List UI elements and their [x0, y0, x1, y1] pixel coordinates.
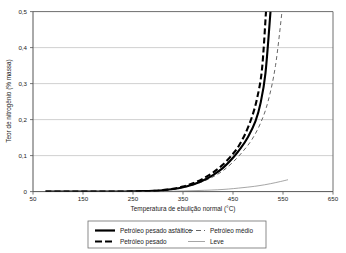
- xtick-label-550: 550: [278, 195, 289, 202]
- legend-label-petroleo-medio: Petróleo médio: [210, 227, 253, 234]
- nitrogen-content-chart: 0,5 0,4 0,3 0,2 0,1 0 50 150 250 350 450…: [0, 0, 346, 253]
- chart-figure: 0,5 0,4 0,3 0,2 0,1 0 50 150 250 350 450…: [0, 0, 346, 253]
- xtick-label-50: 50: [30, 195, 37, 202]
- ytick-label-0.4: 0,4: [18, 44, 27, 51]
- legend-label-petroleo-pesado: Petróleo pesado: [120, 238, 167, 246]
- chart-background: [0, 0, 346, 253]
- xtick-label-650: 650: [328, 195, 339, 202]
- legend-box: [88, 221, 266, 248]
- xtick-label-150: 150: [78, 195, 89, 202]
- legend-label-leve: Leve: [210, 238, 224, 245]
- xtick-label-250: 250: [128, 195, 139, 202]
- legend-label-petroleo-pesado-asfaltico: Petróleo pesado asfáltico: [120, 227, 192, 235]
- ytick-label-0.1: 0,1: [18, 152, 27, 159]
- ytick-label-0: 0: [24, 188, 28, 195]
- xtick-label-350: 350: [178, 195, 189, 202]
- xtick-label-450: 450: [228, 195, 239, 202]
- ytick-label-0.3: 0,3: [18, 80, 27, 87]
- ytick-label-0.5: 0,5: [18, 8, 27, 15]
- y-axis-title: Teor de nitrogênio (% massa): [5, 59, 13, 142]
- ytick-label-0.2: 0,2: [18, 116, 27, 123]
- x-axis-title: Temperatura de ebulição normal (°C): [131, 205, 236, 213]
- chart-legend: Petróleo pesado asfáltico Petróleo médio…: [88, 221, 266, 248]
